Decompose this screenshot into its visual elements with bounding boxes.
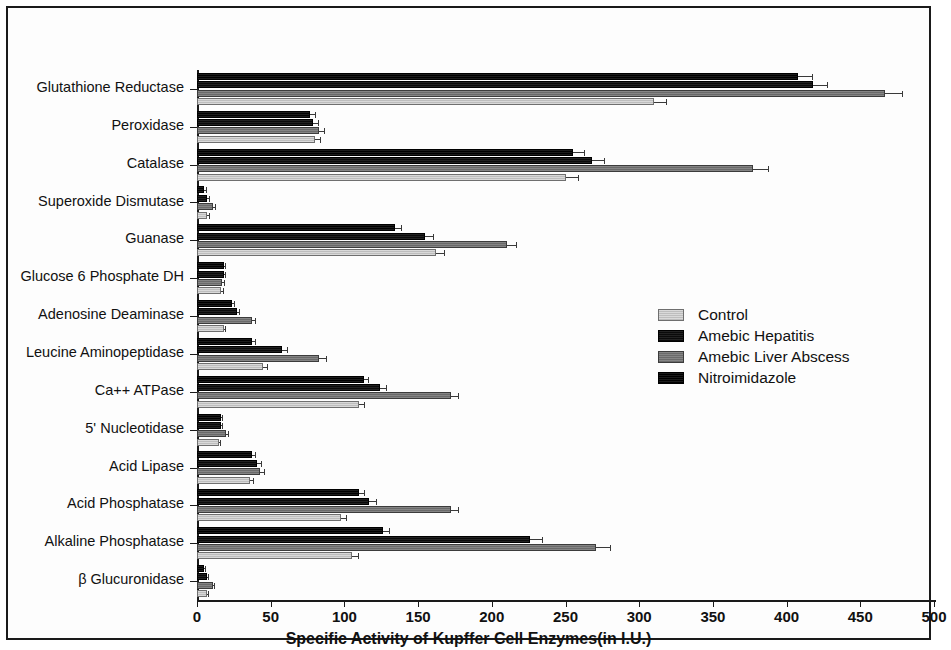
error-bar-cap: [267, 364, 268, 370]
bar: [197, 241, 507, 248]
x-tick-label: 150: [388, 608, 448, 625]
error-bar-cap: [364, 490, 365, 496]
y-tick: [190, 468, 197, 469]
bar-fill: [197, 346, 282, 353]
bar: [197, 111, 310, 118]
bar-fill: [197, 451, 252, 458]
error-bar: [221, 417, 223, 418]
error-bar-cap: [261, 461, 262, 467]
error-bar: [813, 85, 828, 86]
error-bar: [573, 152, 585, 153]
bar: [197, 376, 364, 383]
bar-fill: [197, 325, 224, 332]
bar: [197, 544, 596, 551]
bar: [197, 136, 315, 143]
bar-fill: [197, 157, 592, 164]
bar: [197, 279, 222, 286]
x-tick: [639, 600, 640, 607]
bar: [197, 477, 250, 484]
error-bar: [319, 358, 326, 359]
bar-fill: [197, 249, 436, 256]
bar: [197, 308, 237, 315]
bar: [197, 81, 813, 88]
error-bar-cap: [209, 213, 210, 219]
bar-fill: [197, 544, 596, 551]
bar-fill: [197, 300, 232, 307]
bar: [197, 346, 282, 353]
bar-fill: [197, 203, 213, 210]
error-bar: [207, 198, 209, 199]
error-bar: [753, 169, 769, 170]
legend-item: Amebic Hepatitis: [658, 325, 850, 346]
error-bar: [310, 114, 316, 115]
bar-fill: [197, 165, 753, 172]
error-bar: [257, 463, 261, 464]
bar-fill: [197, 590, 207, 597]
bar-fill: [197, 149, 573, 156]
bar: [197, 249, 436, 256]
x-tick: [492, 600, 493, 607]
bar-fill: [197, 363, 263, 370]
y-tick: [190, 240, 197, 241]
y-tick: [190, 316, 197, 317]
x-axis-title: Specific Activity of Kupffer Cell Enzyme…: [8, 630, 929, 648]
x-axis-line: [197, 600, 936, 602]
bar-fill: [197, 552, 352, 559]
error-bar: [654, 102, 667, 103]
bar: [197, 439, 219, 446]
x-tick-label: 250: [536, 608, 596, 625]
bar-fill: [197, 279, 222, 286]
x-tick: [713, 600, 714, 607]
error-bar-cap: [768, 166, 769, 172]
bar: [197, 325, 224, 332]
error-bar: [451, 510, 460, 511]
x-tick-label: 50: [241, 608, 301, 625]
error-bar: [222, 282, 225, 283]
error-bar: [359, 404, 365, 405]
bar: [197, 119, 313, 126]
bar-fill: [197, 98, 654, 105]
bar: [197, 149, 573, 156]
x-tick-label: 200: [462, 608, 522, 625]
bar: [197, 165, 753, 172]
bar-fill: [197, 468, 260, 475]
error-bar: [207, 215, 209, 216]
bar-fill: [197, 477, 250, 484]
bar-fill: [197, 489, 359, 496]
error-bar: [232, 303, 235, 304]
error-bar-cap: [222, 423, 223, 429]
bar: [197, 262, 224, 269]
error-bar-cap: [401, 225, 402, 231]
error-bar: [213, 207, 216, 208]
legend-item: Control: [658, 304, 850, 325]
chart-legend: ControlAmebic HepatitisAmebic Liver Absc…: [658, 304, 850, 388]
bar-fill: [197, 338, 252, 345]
error-bar-cap: [376, 499, 377, 505]
error-bar-cap: [516, 242, 517, 248]
bar: [197, 212, 207, 219]
error-bar-cap: [610, 545, 611, 551]
error-bar: [436, 253, 445, 254]
bar-fill: [197, 422, 221, 429]
y-category-label: Adenosine Deaminase: [8, 306, 184, 322]
error-bar: [359, 493, 365, 494]
bar: [197, 468, 260, 475]
bar: [197, 157, 592, 164]
bar: [197, 384, 380, 391]
error-bar-cap: [315, 112, 316, 118]
bar-fill: [197, 514, 341, 521]
error-bar: [566, 177, 579, 178]
error-bar: [395, 228, 402, 229]
bar: [197, 98, 654, 105]
error-bar-cap: [255, 318, 256, 324]
chart-frame: 050100150200250300350400450500 Glutathio…: [6, 6, 931, 640]
bar-fill: [197, 376, 364, 383]
bar: [197, 565, 204, 572]
x-tick: [344, 600, 345, 607]
error-bar-cap: [386, 385, 387, 391]
error-bar-cap: [812, 74, 813, 80]
y-category-label: Peroxidase: [8, 117, 184, 133]
y-category-label: Catalase: [8, 155, 184, 171]
x-tick: [197, 600, 198, 607]
x-tick-label: 300: [609, 608, 669, 625]
